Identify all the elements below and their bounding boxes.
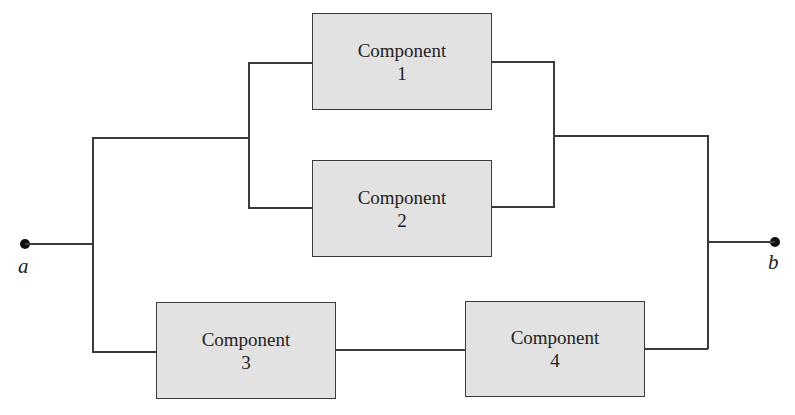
component-4-box: Component 4: [465, 301, 645, 397]
component-4-number: 4: [550, 349, 560, 372]
wire-from-component-1: [492, 61, 554, 63]
wire-upper-left-horizontal: [92, 137, 249, 139]
wire-left-inner-vertical: [248, 62, 250, 209]
wire-to-component-3: [92, 351, 156, 353]
component-2-number: 2: [397, 209, 407, 232]
wire-upper-right-horizontal: [553, 135, 708, 137]
node-a-label: a: [18, 254, 29, 279]
wire-a-lead: [25, 243, 93, 245]
wire-to-component-1: [248, 62, 312, 64]
wire-left-outer-vertical: [92, 137, 94, 352]
wire-b-lead: [707, 241, 775, 243]
component-1-name: Component: [358, 39, 447, 62]
component-3-name: Component: [202, 328, 291, 351]
component-3-number: 3: [241, 351, 251, 374]
component-2-name: Component: [358, 186, 447, 209]
wire-component-3-to-4: [336, 349, 465, 351]
component-3-box: Component 3: [156, 302, 336, 399]
wire-to-component-2: [248, 207, 312, 209]
component-1-box: Component 1: [312, 13, 492, 110]
node-b-label: b: [768, 250, 779, 275]
wire-from-component-2: [492, 206, 554, 208]
component-4-name: Component: [511, 326, 600, 349]
reliability-block-diagram: a b Component 1 Component 2 Component 3 …: [0, 0, 795, 415]
component-1-number: 1: [397, 62, 407, 85]
component-2-box: Component 2: [312, 160, 492, 257]
wire-from-component-4: [645, 348, 708, 350]
